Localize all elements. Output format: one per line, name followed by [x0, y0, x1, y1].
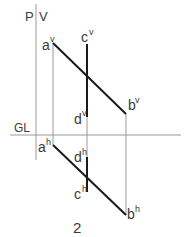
label-a-v: a	[42, 37, 50, 53]
label-c-h: c	[74, 186, 81, 202]
line-ab-top	[53, 145, 126, 215]
figure-number: 2	[73, 219, 81, 236]
label-b-v-sup: v	[135, 95, 140, 105]
label-d-h: d	[74, 149, 82, 165]
label-a-v-sup: v	[50, 34, 55, 44]
label-d-v: d	[74, 111, 82, 127]
label-gl: GL	[14, 121, 30, 135]
label-a-h-sup: h	[46, 137, 51, 147]
label-c-v-sup: v	[89, 27, 94, 37]
label-v: V	[39, 9, 48, 24]
label-c-v: c	[81, 29, 88, 45]
label-d-v-sup: v	[82, 108, 87, 118]
orthographic-projection-diagram: P V GL a v c v d v b v a h d h c h b h 2	[0, 0, 189, 237]
label-b-h: b	[127, 206, 135, 222]
line-ab-front	[53, 43, 126, 114]
label-a-h: a	[38, 139, 46, 155]
label-b-h-sup: h	[135, 204, 140, 214]
label-c-h-sup: h	[82, 184, 87, 194]
label-d-h-sup: h	[82, 147, 87, 157]
label-p: P	[25, 9, 34, 24]
